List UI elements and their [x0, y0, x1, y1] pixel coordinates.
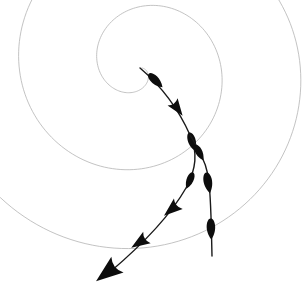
spiral-trajectory-figure [0, 0, 307, 292]
figure-background [0, 0, 307, 292]
figure-root [0, 0, 307, 292]
